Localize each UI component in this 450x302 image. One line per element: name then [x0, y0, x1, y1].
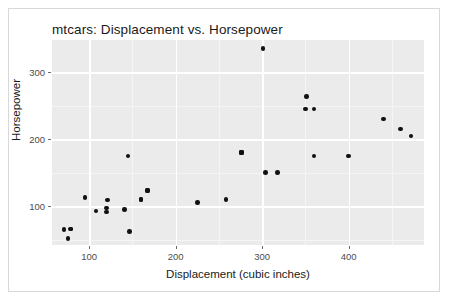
- y-tick-label: 200: [20, 134, 45, 145]
- data-point: [62, 227, 67, 232]
- data-point: [94, 209, 99, 214]
- data-point: [105, 198, 110, 203]
- data-point: [312, 107, 317, 112]
- data-point: [83, 195, 88, 200]
- data-point: [126, 154, 131, 159]
- x-tick-label: 200: [168, 251, 184, 262]
- data-point: [69, 227, 74, 232]
- plot-title: mtcars: Displacement vs. Horsepower: [52, 22, 283, 37]
- data-point: [312, 154, 317, 159]
- x-axis-label: Displacement (cubic inches): [52, 268, 424, 280]
- data-point: [224, 197, 229, 202]
- data-point: [261, 46, 266, 51]
- gridline-major-vertical: [89, 40, 90, 245]
- gridline-minor-vertical: [132, 40, 133, 245]
- plot-panel: [52, 40, 424, 245]
- scatter-plot-figure: mtcars: Displacement vs. Horsepower 1002…: [0, 0, 450, 302]
- y-tick-mark: [48, 206, 51, 207]
- gridline-major-horizontal: [52, 139, 424, 140]
- gridline-minor-horizontal: [52, 173, 424, 174]
- data-point: [275, 170, 280, 175]
- gridline-major-horizontal: [52, 72, 424, 73]
- x-tick-mark: [176, 246, 177, 249]
- x-tick-mark: [89, 246, 90, 249]
- gridline-minor-vertical: [219, 40, 220, 245]
- gridline-minor-horizontal: [52, 240, 424, 241]
- data-point: [127, 229, 132, 234]
- data-point: [122, 207, 127, 212]
- data-point: [66, 236, 71, 241]
- gridline-minor-vertical: [392, 40, 393, 245]
- data-point: [104, 210, 109, 215]
- data-point: [398, 127, 403, 132]
- gridline-major-vertical: [349, 40, 350, 245]
- data-point: [195, 200, 200, 205]
- x-tick-mark: [262, 246, 263, 249]
- data-point: [139, 197, 144, 202]
- y-tick-label: 300: [20, 67, 45, 78]
- x-tick-mark: [349, 246, 350, 249]
- y-tick-mark: [48, 72, 51, 73]
- x-tick-label: 400: [341, 251, 357, 262]
- gridline-minor-horizontal: [52, 106, 424, 107]
- y-axis-label: Horsepower: [10, 50, 22, 170]
- x-tick-label: 300: [254, 251, 270, 262]
- data-point: [381, 117, 386, 122]
- data-point: [239, 150, 244, 155]
- data-point: [145, 188, 150, 193]
- y-tick-label: 100: [20, 201, 45, 212]
- y-tick-mark: [48, 139, 51, 140]
- gridline-minor-vertical: [305, 40, 306, 245]
- data-point: [409, 134, 414, 139]
- gridline-major-vertical: [176, 40, 177, 245]
- x-tick-label: 100: [81, 251, 97, 262]
- gridline-major-vertical: [262, 40, 263, 245]
- data-point: [304, 94, 309, 99]
- data-point: [346, 154, 351, 159]
- data-point: [303, 107, 308, 112]
- data-point: [263, 170, 268, 175]
